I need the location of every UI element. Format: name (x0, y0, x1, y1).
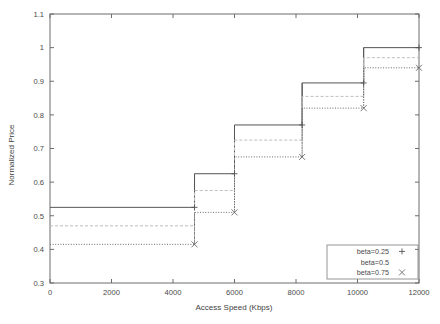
series-layer (50, 48, 419, 245)
y-tick-label: 0.9 (33, 77, 44, 86)
x-tick-label: 8000 (288, 288, 305, 297)
marker-layer (192, 45, 422, 248)
y-tick-label: 0.3 (33, 279, 44, 288)
x-tick-label: 0 (48, 288, 52, 297)
data-point-beta-0-25 (232, 171, 238, 177)
x-axis-tick-labels: 020004000600080001000012000 (48, 288, 430, 297)
y-tick-label: 0.8 (33, 111, 44, 120)
y-tick-label: 0.4 (33, 245, 44, 254)
y-axis-tick-labels: 0.30.40.50.60.70.80.911.1 (33, 10, 44, 288)
x-axis-title: Access Speed (Kbps) (196, 303, 273, 312)
legend-label-0: beta=0.25 (357, 247, 389, 256)
legend-box: beta=0.25beta=0.5beta=0.75 (327, 245, 418, 279)
y-axis-title: Normalized Price (7, 124, 16, 185)
data-point-beta-0-25 (192, 204, 198, 210)
y-tick-label: 1 (40, 43, 44, 52)
y-tick-label: 0.7 (33, 144, 44, 153)
y-tick-label: 1.1 (33, 10, 44, 19)
x-tick-label: 12000 (408, 288, 429, 297)
legend-label-1: beta=0.5 (361, 258, 389, 267)
data-point-beta-0-25 (361, 80, 367, 86)
data-point-beta-0-25 (416, 45, 422, 51)
chart-container: 020004000600080001000012000 0.30.40.50.6… (0, 0, 440, 324)
legend-label-2: beta=0.75 (357, 268, 389, 277)
normalized-price-step-chart: 020004000600080001000012000 0.30.40.50.6… (0, 0, 440, 324)
x-tick-label: 2000 (103, 288, 120, 297)
y-tick-label: 0.5 (33, 212, 44, 221)
x-tick-label: 10000 (347, 288, 368, 297)
data-point-beta-0-75 (192, 241, 198, 247)
y-tick-label: 0.6 (33, 178, 44, 187)
data-point-beta-0-25 (299, 122, 305, 128)
x-tick-label: 6000 (226, 288, 243, 297)
data-point-beta-0-75 (299, 154, 305, 160)
x-tick-label: 4000 (165, 288, 182, 297)
